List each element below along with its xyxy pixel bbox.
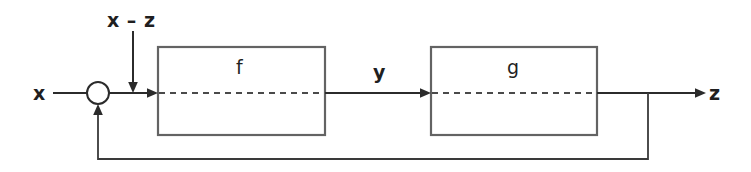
arrowhead-into-block-f bbox=[147, 88, 158, 98]
summing-junction-circle bbox=[87, 82, 109, 104]
label-input-x: x bbox=[33, 84, 45, 103]
arrowhead-into-block-g bbox=[420, 88, 431, 98]
arrowhead-error-annotation bbox=[128, 82, 138, 93]
label-output-z: z bbox=[709, 84, 720, 103]
arrowhead-output-z bbox=[695, 88, 706, 98]
label-error-x-minus-z: x – z bbox=[107, 11, 156, 30]
label-signal-y: y bbox=[373, 63, 385, 82]
block-diagram: x x – z f y g z bbox=[0, 0, 751, 172]
label-block-f: f bbox=[236, 58, 243, 77]
arrowhead-feedback-into-junction bbox=[93, 104, 103, 115]
label-block-g: g bbox=[507, 58, 519, 77]
